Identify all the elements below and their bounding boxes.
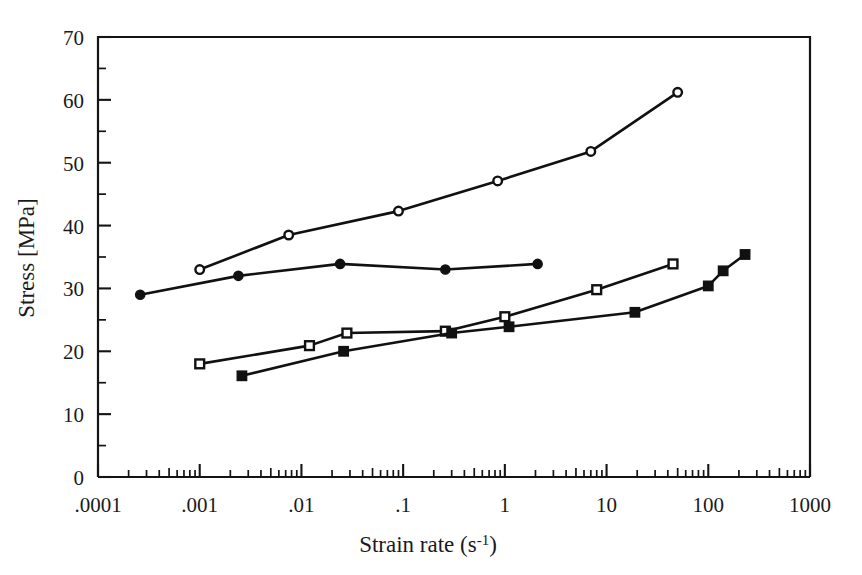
y-tick-label-5: 50	[63, 152, 84, 176]
marker-open-square	[669, 260, 678, 269]
figure-container: .0001.001.01.11101001000 010203040506070…	[0, 0, 862, 575]
marker-open-circle	[195, 265, 204, 274]
x-tick-label-5: 10	[596, 493, 617, 517]
marker-filled-circle	[441, 265, 450, 274]
y-tick-label-6: 60	[63, 89, 84, 113]
marker-filled-square	[718, 266, 727, 275]
plot-border	[98, 37, 810, 477]
marker-open-circle	[493, 177, 502, 186]
x-tick-label-4: 1	[500, 493, 511, 517]
series-line-0	[200, 92, 678, 269]
plot-frame	[98, 37, 810, 477]
marker-filled-square	[704, 281, 713, 290]
marker-filled-circle	[533, 259, 542, 268]
y-tick-label-1: 10	[63, 403, 84, 427]
marker-open-circle	[394, 207, 403, 216]
marker-filled-circle	[336, 259, 345, 268]
y-tick-label-7: 70	[63, 26, 84, 50]
marker-open-square	[305, 341, 314, 350]
marker-filled-circle	[234, 271, 243, 280]
marker-open-square	[500, 312, 509, 321]
marker-filled-square	[740, 250, 749, 259]
marker-filled-circle	[136, 290, 145, 299]
x-tick-label-6: 100	[693, 493, 725, 517]
marker-open-circle	[587, 147, 596, 156]
x-axis-title-tail: )	[489, 532, 497, 557]
y-axis-ticks	[98, 37, 111, 477]
y-tick-label-0: 0	[74, 466, 85, 490]
x-axis-title: Strain rate (s-1)	[359, 532, 497, 557]
stress-strain-rate-chart: .0001.001.01.11101001000 010203040506070…	[0, 0, 862, 575]
y-tick-label-3: 30	[63, 277, 84, 301]
x-tick-label-0: .0001	[74, 493, 121, 517]
y-axis-tick-labels: 010203040506070	[63, 26, 84, 490]
marker-open-square	[343, 329, 352, 338]
x-axis-title-exponent: -1	[477, 532, 490, 548]
marker-filled-square	[504, 322, 513, 331]
marker-filled-square	[339, 347, 348, 356]
series-line-3	[242, 254, 745, 375]
x-tick-label-2: .01	[288, 493, 314, 517]
marker-open-square	[195, 359, 204, 368]
x-axis-tick-labels: .0001.001.01.11101001000	[74, 493, 831, 517]
y-axis-title: Stress [MPa]	[14, 198, 39, 317]
series-line-2	[200, 264, 673, 364]
marker-filled-square	[237, 371, 246, 380]
marker-filled-square	[447, 328, 456, 337]
marker-open-circle	[673, 88, 682, 97]
marker-filled-square	[630, 308, 639, 317]
marker-open-square	[592, 285, 601, 294]
y-tick-label-4: 40	[63, 215, 84, 239]
x-tick-label-7: 1000	[789, 493, 831, 517]
x-axis-ticks	[98, 464, 810, 477]
marker-open-circle	[284, 231, 293, 240]
y-tick-label-2: 20	[63, 340, 84, 364]
series-0	[195, 88, 682, 274]
x-tick-label-1: .001	[181, 493, 218, 517]
x-axis-title-base: Strain rate (s	[359, 532, 477, 557]
x-tick-label-3: .1	[395, 493, 411, 517]
data-series-group	[136, 88, 750, 380]
series-2	[195, 260, 677, 369]
